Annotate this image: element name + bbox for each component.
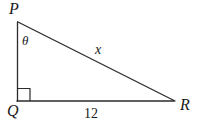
side-label-hypotenuse-x: x: [95, 43, 101, 57]
triangle-svg: [0, 0, 200, 128]
vertex-label-r: R: [180, 97, 190, 113]
geometry-figure: P Q R θ x 12: [0, 0, 200, 128]
angle-label-theta: θ: [22, 34, 28, 47]
segment-pr: [18, 22, 175, 101]
right-angle-marker: [18, 89, 31, 102]
side-label-base-12: 12: [84, 107, 98, 121]
vertex-label-q: Q: [7, 103, 19, 119]
vertex-label-p: P: [9, 1, 19, 17]
